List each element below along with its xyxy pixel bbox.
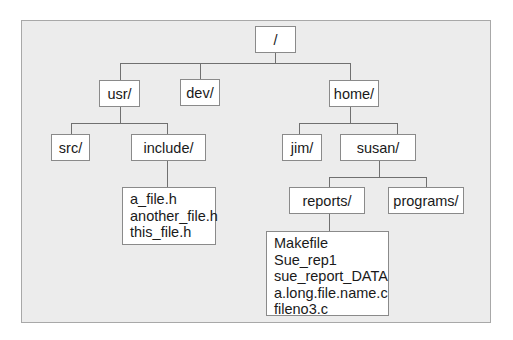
connector — [350, 106, 351, 123]
connector — [329, 213, 330, 231]
node-include: include/ — [131, 134, 206, 161]
connector — [350, 63, 351, 80]
node-usr: usr/ — [99, 80, 140, 107]
file-item: Sue_rep1 — [274, 252, 388, 269]
connector — [120, 106, 121, 123]
file-item: another_file.h — [130, 208, 215, 225]
reports-file-list: Makefile Sue_rep1 sue_report_DATA a.long… — [266, 231, 389, 316]
connector — [275, 52, 276, 63]
connector — [200, 63, 201, 79]
file-item: fileno3.c — [274, 301, 388, 318]
connector — [120, 63, 351, 64]
file-item: Makefile — [274, 235, 388, 252]
file-item: a.long.file.name.c — [274, 285, 388, 302]
node-home: home/ — [329, 80, 379, 107]
node-src: src/ — [51, 134, 90, 161]
connector — [397, 123, 398, 134]
connector — [71, 123, 72, 134]
node-jim: jim/ — [282, 134, 322, 161]
node-root: / — [255, 26, 296, 53]
file-item: sue_report_DATA — [274, 268, 388, 285]
connector — [329, 177, 427, 178]
node-reports: reports/ — [289, 187, 365, 214]
connector — [71, 123, 168, 124]
node-dev: dev/ — [180, 79, 220, 106]
connector — [167, 160, 168, 187]
connector — [329, 177, 330, 187]
connector — [299, 123, 300, 134]
diagram-panel — [21, 20, 491, 323]
connector — [120, 63, 121, 80]
node-susan: susan/ — [340, 134, 416, 161]
connector — [299, 123, 398, 124]
connector — [426, 177, 427, 187]
file-item: this_file.h — [130, 224, 215, 241]
connector — [379, 160, 380, 177]
node-programs: programs/ — [388, 187, 464, 214]
connector — [167, 123, 168, 134]
file-item: a_file.h — [130, 191, 215, 208]
include-file-list: a_file.h another_file.h this_file.h — [122, 187, 216, 245]
